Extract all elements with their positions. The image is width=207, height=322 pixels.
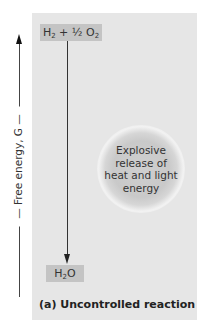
axis-label: — Free energy, G — <box>12 107 25 227</box>
energy-release-label: Explosive release of heat and light ener… <box>97 144 185 194</box>
reaction-arrowhead-icon <box>64 254 70 264</box>
reaction-arrow-line <box>67 41 68 256</box>
products-box: H2O <box>46 265 84 282</box>
figure-caption: (a) Uncontrolled reaction <box>39 298 195 311</box>
reactants-box: H2 + ½ O2 <box>40 24 102 41</box>
axis-arrowhead-icon <box>16 34 22 44</box>
